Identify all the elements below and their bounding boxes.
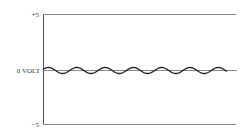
tick-label-minus-5: −5: [32, 121, 40, 129]
tick-label-zero-volt: 0 VOLT: [17, 67, 41, 75]
tick-label-plus-5: +5: [32, 11, 40, 19]
voltage-chart: +5 0 VOLT −5: [0, 0, 248, 137]
